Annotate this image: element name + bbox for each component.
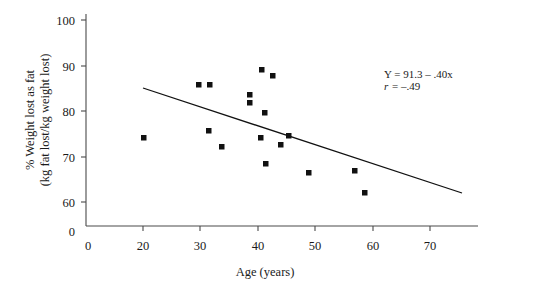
y-tick-label-90: 90 xyxy=(63,60,76,74)
data-point xyxy=(206,128,212,134)
x-axis-ticks xyxy=(143,226,430,231)
data-point xyxy=(258,135,264,141)
correlation-symbol: r xyxy=(384,80,389,92)
x-tick-label-50: 50 xyxy=(309,239,322,253)
data-point xyxy=(247,100,253,106)
data-point xyxy=(262,110,268,116)
data-point xyxy=(278,142,284,148)
y-axis-title-line2: (kg fat lost/kg weight lost) xyxy=(38,54,52,187)
x-axis-title: Age (years) xyxy=(236,265,295,279)
y-axis-ticks xyxy=(81,20,86,202)
data-point xyxy=(259,67,265,73)
y-tick-label-100: 100 xyxy=(56,14,75,28)
data-point xyxy=(247,92,253,98)
regression-line xyxy=(143,88,462,193)
correlation-label: r = –.49 xyxy=(384,80,421,92)
data-point xyxy=(270,73,276,79)
data-point xyxy=(207,82,213,88)
data-point xyxy=(362,190,368,196)
correlation-value: = –.49 xyxy=(392,80,421,92)
regression-equation-label: Y = 91.3 – .40x xyxy=(384,68,453,80)
x-tick-label-60: 60 xyxy=(367,239,380,253)
y-tick-label-0: 0 xyxy=(69,225,75,239)
x-tick-label-40: 40 xyxy=(252,239,265,253)
data-point xyxy=(219,144,225,150)
data-point xyxy=(352,168,358,174)
data-point xyxy=(306,170,312,176)
y-tick-label-80: 80 xyxy=(63,105,76,119)
data-points-group xyxy=(141,67,368,196)
x-tick-label-0: 0 xyxy=(85,239,91,253)
x-tick-label-70: 70 xyxy=(424,239,437,253)
data-point xyxy=(196,82,202,88)
scatter-plot-figure: 100 90 80 70 60 0 0 20 30 40 50 60 70 Ag… xyxy=(0,0,558,301)
data-point xyxy=(141,135,147,141)
y-tick-label-70: 70 xyxy=(63,151,76,165)
y-axis-title-line1: % Weight lost as fat xyxy=(23,69,37,170)
y-tick-label-60: 60 xyxy=(63,196,76,210)
data-point xyxy=(286,133,292,139)
data-point xyxy=(263,161,269,167)
x-tick-label-30: 30 xyxy=(194,239,207,253)
x-tick-label-20: 20 xyxy=(137,239,150,253)
chart-canvas: 100 90 80 70 60 0 0 20 30 40 50 60 70 Ag… xyxy=(0,0,558,301)
